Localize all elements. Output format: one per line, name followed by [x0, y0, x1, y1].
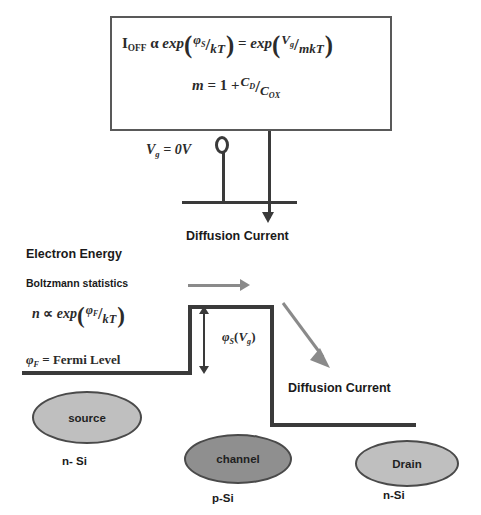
equals-sign-1: = [238, 35, 247, 51]
kt-denominator-n: kT [103, 312, 117, 327]
phi-s-symbol: φ [193, 32, 201, 47]
paren-close-phis: ) [251, 329, 255, 344]
region-ellipse-channel: channel [184, 434, 292, 484]
fraction-phis-kt: φS/kT [193, 32, 225, 57]
paren-close-n: ) [117, 307, 125, 324]
diffusion-current-label-bottom: Diffusion Current [288, 381, 391, 395]
proportional-symbol: α [150, 35, 158, 51]
material-label-source: n- Si [62, 455, 87, 467]
gate-terminal-node-icon [215, 136, 229, 154]
gate-ground-bar [182, 201, 297, 204]
diffusion-current-diagonal-arrow-icon [280, 300, 336, 372]
region-label-channel: channel [216, 453, 259, 465]
band-edge-barrier-fall [270, 305, 274, 427]
region-ellipse-drain: Drain [355, 440, 459, 487]
cox-symbol: C [260, 83, 269, 98]
fermi-symbol: φ [26, 352, 34, 367]
cox-subscript: OX [269, 91, 280, 100]
region-label-source: source [68, 412, 106, 424]
gate-voltage-subscript: g [155, 149, 159, 159]
paren-open-n: ( [77, 307, 85, 324]
mkt-denominator: mkT [299, 41, 324, 57]
equals-sign-2: = [207, 77, 216, 93]
gate-voltage-value: = 0V [163, 142, 191, 157]
boltzmann-statistics-label: Boltzmann statistics [26, 277, 128, 289]
region-label-drain: Drain [392, 458, 421, 470]
paren-close-2: ) [325, 36, 333, 54]
region-ellipse-source: source [32, 391, 142, 444]
diagram-canvas: IOFF α exp(φS/kT) = exp(Vg/mkT) m = 1 +C… [0, 0, 481, 515]
m-symbol: m [192, 77, 204, 93]
fermi-subscript: F [34, 360, 39, 369]
paren-open-1: ( [184, 36, 192, 54]
exp-operator-1: exp [162, 35, 184, 51]
electron-energy-label: Electron Energy [26, 247, 122, 261]
formula-m-equation: m = 1 +CD/COX [192, 74, 281, 100]
band-edge-drain-region [270, 423, 416, 427]
band-edge-barrier-rise [188, 305, 192, 375]
electron-flow-arrowhead-icon [240, 279, 250, 291]
fermi-level-text: = Fermi Level [42, 352, 120, 367]
gate-vertical-lead [268, 131, 271, 218]
diffusion-current-label-top: Diffusion Current [186, 229, 289, 243]
gate-voltage-symbol: V [146, 142, 155, 157]
one-plus-term: 1 + [220, 77, 240, 93]
exp-operator-2: exp [250, 35, 272, 51]
formula-ioff-equation: IOFF α exp(φS/kT) = exp(Vg/mkT) [122, 32, 333, 57]
fraction-phif-kt: φF/kT [86, 303, 116, 327]
gate-terminal-stem [222, 152, 225, 203]
phi-f-symbol: φ [86, 303, 93, 317]
gate-voltage-label: Vg = 0V [146, 142, 191, 159]
surface-potential-label: φS(Vg) [222, 329, 255, 346]
barrier-height-arrowhead-up-icon [199, 306, 209, 314]
electron-flow-arrow-shaft [188, 284, 242, 287]
material-label-channel: p-Si [212, 492, 234, 504]
barrier-height-arrow-shaft [203, 312, 205, 368]
carrier-density-formula: n ∝ exp(φF/kT) [32, 303, 125, 327]
fermi-level-label: φF = Fermi Level [26, 352, 120, 369]
barrier-height-arrowhead-down-icon [199, 366, 209, 374]
kt-denominator: kT [210, 41, 225, 57]
exp-operator-n: exp [57, 306, 77, 321]
fraction-cd-cox: CD/COX [241, 74, 281, 100]
formula-box: IOFF α exp(φS/kT) = exp(Vg/mkT) m = 1 +C… [110, 16, 392, 131]
fraction-vg-mkt: Vg/mkT [281, 32, 324, 57]
paren-open-2: ( [272, 36, 280, 54]
paren-close-1: ) [226, 36, 234, 54]
phi-s-band-symbol: φ [222, 329, 230, 344]
n-symbol: n [32, 306, 40, 321]
formula-ioff-subscript: OFF [128, 43, 147, 53]
material-label-drain: n-Si [383, 489, 405, 501]
vg-band-symbol: V [238, 329, 247, 344]
band-edge-source-region [22, 371, 192, 375]
vg-symbol: V [281, 32, 290, 47]
proportional-symbol-n: ∝ [43, 306, 53, 321]
current-arrowhead-icon [262, 212, 274, 223]
